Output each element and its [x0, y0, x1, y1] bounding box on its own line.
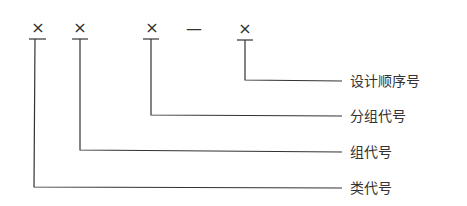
code-symbol-design: × [238, 21, 251, 37]
label-design-sequence: 设计顺序号 [350, 73, 420, 89]
connector-subgroup [151, 39, 342, 116]
code-symbol-class: × [31, 20, 44, 36]
label-group-code: 组代号 [350, 144, 392, 160]
connector-design [245, 40, 342, 81]
code-symbol-subgroup: × [145, 20, 158, 36]
label-class-code: 类代号 [350, 180, 392, 196]
separator-dash: — [186, 21, 202, 37]
label-subgroup-code: 分组代号 [350, 108, 406, 124]
code-symbol-group: × [73, 20, 86, 36]
diagram-lines [0, 0, 467, 206]
connector-group [80, 39, 342, 152]
